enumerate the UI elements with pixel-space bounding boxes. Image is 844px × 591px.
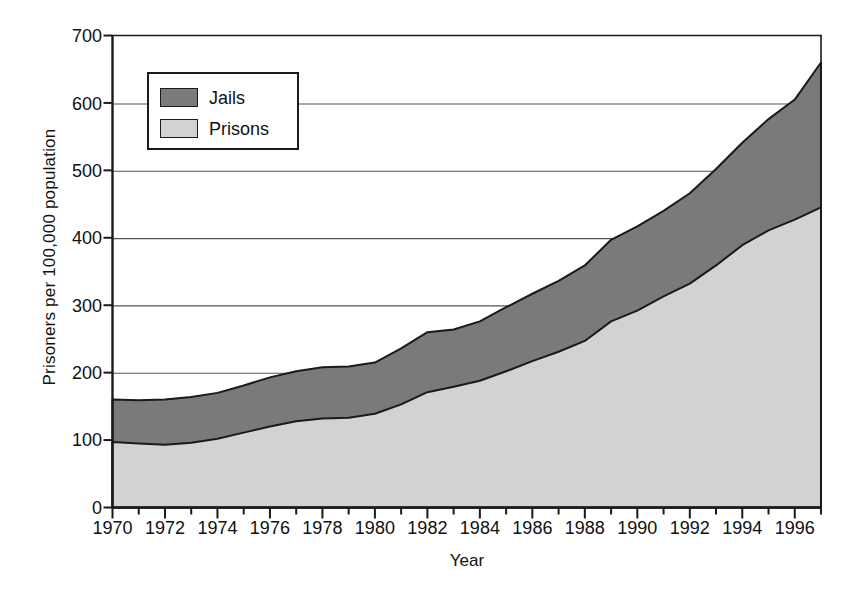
legend-item-jails: Jails: [160, 82, 297, 113]
x-axis-tick-labels: 1970197219741976197819801982198419861988…: [0, 0, 844, 591]
x-axis-title: Year: [112, 551, 822, 571]
legend-label-jails: Jails: [209, 89, 245, 107]
legend-swatch-jails: [160, 88, 198, 107]
chart-legend: Jails Prisons: [147, 72, 299, 150]
legend-item-prisons: Prisons: [160, 113, 297, 144]
chart-figure: Prisoners per 100,000 population 0 100 2…: [0, 0, 844, 591]
legend-swatch-prisons: [160, 119, 198, 138]
x-tick-label: 1996: [763, 518, 827, 538]
legend-label-prisons: Prisons: [209, 120, 269, 138]
